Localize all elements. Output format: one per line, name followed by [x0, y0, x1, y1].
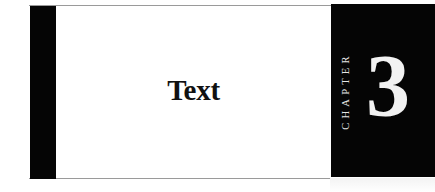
left-decorative-bar	[30, 6, 56, 179]
chapter-number: 3	[360, 42, 416, 130]
chapter-title: Text	[56, 74, 331, 107]
bottom-shadow	[330, 178, 435, 192]
chapter-label: CHAPTER	[340, 52, 351, 129]
